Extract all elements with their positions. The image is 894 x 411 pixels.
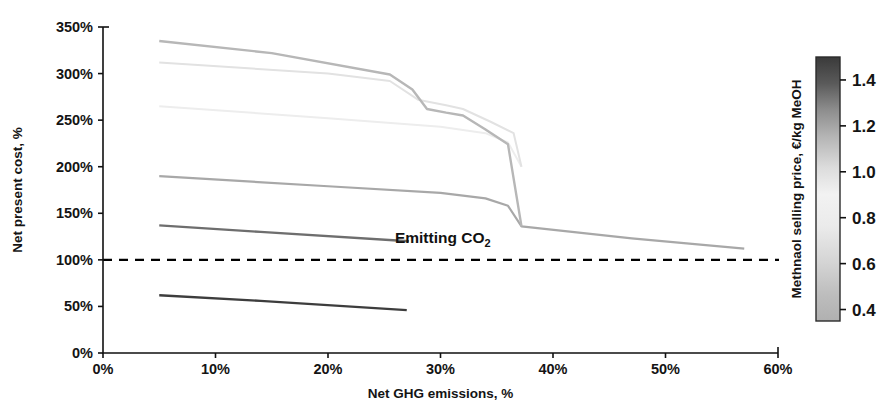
y-tick-label: 250% [56, 112, 93, 128]
chart-annotations: Emitting CO2 [395, 229, 491, 249]
y-tick-label: 0% [72, 345, 93, 361]
axis-spines [103, 27, 778, 353]
colorbar-tick-label: 0.4 [852, 301, 876, 320]
series-line-meoh-price-1.45 [159, 295, 407, 310]
colorbar [816, 57, 840, 321]
colorbar-ticks: 0.40.60.81.01.21.4 [840, 71, 876, 320]
x-tick-label: 0% [93, 361, 114, 377]
x-tick-label: 20% [313, 361, 342, 377]
series-line-meoh-price-0.60 [159, 62, 521, 166]
x-tick-label: 60% [763, 361, 792, 377]
y-tick-label: 150% [56, 205, 93, 221]
x-tick-label: 50% [651, 361, 680, 377]
series-line-meoh-price-1.15 [159, 225, 409, 241]
plot-axes [103, 27, 778, 353]
y-tick-label: 100% [56, 252, 93, 268]
chart-figure: 0%10%20%30%40%50%60% 0%50%100%150%200%25… [0, 0, 894, 411]
series-line-meoh-price-0.45 [159, 41, 521, 226]
emitting-co2-label: Emitting CO2 [395, 229, 491, 249]
y-tick-label: 50% [64, 298, 93, 314]
colorbar-tick-label: 1.2 [852, 117, 876, 136]
colorbar-tick-label: 1.0 [852, 163, 876, 182]
series-line-meoh-price-0.73 [159, 106, 521, 167]
x-tick-label: 10% [201, 361, 230, 377]
colorbar-gradient-swatch [816, 57, 840, 321]
colorbar-tick-label: 0.6 [852, 255, 876, 274]
colorbar-tick-label: 1.4 [852, 71, 876, 90]
y-axis-ticks: 0%50%100%150%200%250%300%350% [56, 19, 103, 361]
x-axis-title: Net GHG emissions, % [368, 386, 514, 401]
y-tick-label: 300% [56, 66, 93, 82]
y-axis-title: Net present cost, % [10, 127, 25, 252]
colorbar-tick-label: 0.8 [852, 209, 876, 228]
series-lines-group [159, 41, 744, 310]
x-tick-label: 40% [538, 361, 567, 377]
x-axis-ticks: 0%10%20%30%40%50%60% [93, 353, 793, 377]
net-present-cost-vs-ghg-emissions-chart: 0%10%20%30%40%50%60% 0%50%100%150%200%25… [0, 0, 894, 411]
y-tick-label: 200% [56, 159, 93, 175]
x-tick-label: 30% [426, 361, 455, 377]
colorbar-title: Methnaol selling price, €/kg MeOH [789, 79, 804, 298]
y-tick-label: 350% [56, 19, 93, 35]
